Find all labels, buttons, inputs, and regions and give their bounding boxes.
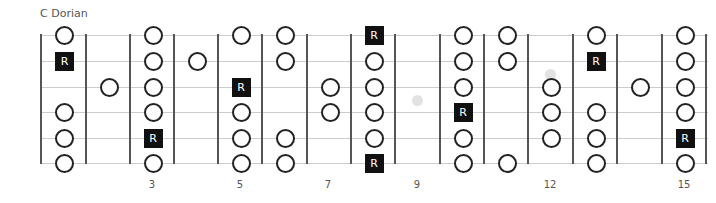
scale-note-circle <box>232 103 251 122</box>
scale-note-circle <box>542 129 561 148</box>
scale-note-circle <box>100 78 119 97</box>
scale-note-circle <box>321 78 340 97</box>
fret-line <box>439 34 441 164</box>
fret-number: 5 <box>230 179 250 190</box>
scale-note-circle <box>454 78 473 97</box>
scale-note-circle <box>676 52 695 71</box>
fret-number: 3 <box>142 179 162 190</box>
fret-line <box>350 34 352 164</box>
scale-note-circle <box>365 103 384 122</box>
scale-note-circle <box>55 26 74 45</box>
scale-note-circle <box>321 103 340 122</box>
scale-note-circle <box>587 26 606 45</box>
scale-note-circle <box>55 154 74 173</box>
scale-note-circle <box>276 129 295 148</box>
root-note-marker: R <box>232 78 251 97</box>
scale-note-circle <box>55 129 74 148</box>
fret-number: 7 <box>318 179 338 190</box>
scale-note-circle <box>498 26 517 45</box>
scale-note-circle <box>454 26 473 45</box>
scale-note-circle <box>276 52 295 71</box>
root-note-marker: R <box>144 129 163 148</box>
fret-line <box>527 34 529 164</box>
scale-note-circle <box>55 103 74 122</box>
scale-note-circle <box>144 103 163 122</box>
scale-note-circle <box>232 129 251 148</box>
scale-note-circle <box>542 103 561 122</box>
scale-note-circle <box>276 154 295 173</box>
fret-line <box>661 34 663 164</box>
scale-note-circle <box>232 26 251 45</box>
fret-line <box>306 34 308 164</box>
scale-note-circle <box>676 154 695 173</box>
fret-line <box>394 34 396 164</box>
root-note-marker: R <box>587 52 606 71</box>
root-note-marker: R <box>676 129 695 148</box>
root-note-marker: R <box>55 52 74 71</box>
root-note-marker: R <box>365 26 384 45</box>
fret-line <box>483 34 485 164</box>
inlay-dot <box>412 95 423 106</box>
fret-line <box>705 34 707 164</box>
scale-note-circle <box>365 129 384 148</box>
scale-note-circle <box>498 154 517 173</box>
scale-note-circle <box>454 154 473 173</box>
scale-note-circle <box>144 78 163 97</box>
scale-note-circle <box>676 26 695 45</box>
fret-line <box>572 34 574 164</box>
scale-note-circle <box>676 103 695 122</box>
fret-line <box>129 34 131 164</box>
fret-line <box>173 34 175 164</box>
fret-line <box>85 34 87 164</box>
fret-line <box>616 34 618 164</box>
root-note-marker: R <box>454 103 473 122</box>
diagram-title: C Dorian <box>40 7 88 20</box>
fret-number: 15 <box>674 179 694 190</box>
scale-note-circle <box>232 154 251 173</box>
scale-note-circle <box>454 52 473 71</box>
scale-note-circle <box>188 52 207 71</box>
scale-note-circle <box>365 78 384 97</box>
fret-line <box>40 34 42 164</box>
fret-line <box>217 34 219 164</box>
scale-note-circle <box>631 78 650 97</box>
scale-note-circle <box>144 154 163 173</box>
scale-note-circle <box>498 52 517 71</box>
scale-note-circle <box>542 78 561 97</box>
scale-note-circle <box>144 52 163 71</box>
scale-note-circle <box>365 52 384 71</box>
scale-note-circle <box>587 129 606 148</box>
scale-note-circle <box>454 129 473 148</box>
scale-note-circle <box>587 103 606 122</box>
fret-number: 9 <box>407 179 427 190</box>
fret-line <box>261 34 263 164</box>
fret-number: 12 <box>540 179 560 190</box>
scale-note-circle <box>676 78 695 97</box>
root-note-marker: R <box>365 154 384 173</box>
scale-note-circle <box>276 26 295 45</box>
scale-note-circle <box>144 26 163 45</box>
scale-note-circle <box>587 154 606 173</box>
